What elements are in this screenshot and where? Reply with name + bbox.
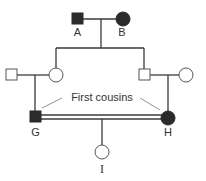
individual-g-affected-male <box>30 111 41 122</box>
label-b: B <box>118 26 125 38</box>
unaffected-male-spouse-left <box>6 69 17 80</box>
individual-a-affected-male <box>72 13 83 24</box>
pedigree-diagram: A B First cousins G H I <box>0 0 206 181</box>
label-h: H <box>164 126 172 138</box>
unaffected-female-daughter <box>49 68 63 82</box>
annotation-pointer-left <box>42 98 62 108</box>
annotation-pointer-right <box>140 98 160 110</box>
first-cousins-annotation: First cousins <box>71 91 133 103</box>
label-a: A <box>74 26 82 38</box>
unaffected-male-son <box>139 69 150 80</box>
individual-h-affected-female <box>161 111 175 125</box>
unaffected-female-spouse-right <box>179 68 193 82</box>
individual-b-affected-female <box>116 12 130 26</box>
individual-i-unaffected-female <box>95 145 109 159</box>
label-i: I <box>100 162 104 176</box>
pedigree-svg: A B First cousins G H I <box>0 0 206 181</box>
label-g: G <box>31 126 40 138</box>
